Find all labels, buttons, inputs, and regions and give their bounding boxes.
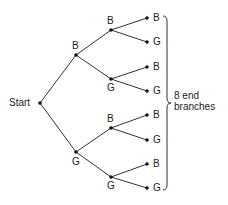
level1-label-b: B bbox=[72, 41, 79, 51]
tree-edges bbox=[40, 18, 147, 188]
root-label: Start bbox=[9, 98, 30, 108]
leaf-label-3: B bbox=[153, 62, 160, 72]
level2-label-b1: B bbox=[107, 16, 114, 26]
level2-label-g2: G bbox=[107, 181, 115, 191]
leaf-label-1: B bbox=[153, 13, 160, 23]
level2-label-g1: G bbox=[107, 83, 115, 93]
brace-annotation-line2: branches bbox=[174, 102, 215, 112]
leaf-label-7: B bbox=[153, 159, 160, 169]
curly-brace bbox=[163, 16, 171, 190]
leaf-label-6: G bbox=[153, 135, 161, 145]
leaf-label-8: G bbox=[153, 183, 161, 193]
leaf-label-4: G bbox=[153, 86, 161, 96]
leaf-label-2: G bbox=[153, 37, 161, 47]
brace-annotation-line1: 8 end bbox=[174, 91, 199, 101]
level2-label-b2: B bbox=[107, 114, 114, 124]
leaf-label-5: B bbox=[153, 110, 160, 120]
level1-label-g: G bbox=[72, 157, 80, 167]
